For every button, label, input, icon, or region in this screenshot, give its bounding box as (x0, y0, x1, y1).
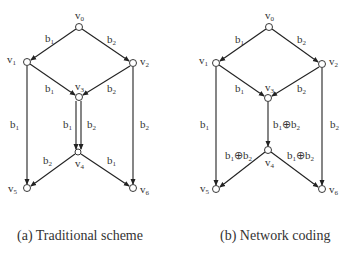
panel-a-traditional-scheme: v0 v1 v2 v3 v4 v5 v6 b1 b2 b1 b2 b1 b2 b… (7, 9, 150, 197)
node-label-a-v2: v2 (140, 55, 150, 69)
node-b-v3 (265, 95, 272, 102)
node-b-v0 (266, 24, 273, 31)
node-a-v1 (24, 59, 31, 66)
edge-label-a-v3-v4-b1: b1 (63, 118, 73, 132)
node-a-v6 (130, 185, 137, 192)
node-b-v1 (213, 60, 220, 67)
node-a-v5 (24, 185, 31, 192)
edge-a-v4-v6 (81, 154, 129, 186)
node-label-a-v6: v6 (140, 183, 150, 197)
node-label-b-v4: v4 (265, 156, 275, 170)
edge-label-a-v2-v6: b2 (140, 118, 150, 132)
node-b-v6 (319, 186, 326, 193)
node-b-v4 (265, 147, 272, 154)
network-coding-diagram: v0 v1 v2 v3 v4 v5 v6 b1 b2 b1 b2 b1 b2 b… (0, 0, 347, 257)
edge-b-v2-v3 (272, 67, 319, 96)
node-a-v3 (76, 94, 83, 101)
edge-label-b-v0-v1: b1 (235, 33, 245, 47)
edge-label-a-v1-v3: b1 (45, 82, 55, 96)
node-a-v4 (75, 149, 81, 155)
edge-a-v4-v5 (31, 154, 75, 186)
node-label-b-v0: v0 (265, 9, 275, 23)
node-label-b-v6: v6 (329, 183, 339, 197)
edge-label-a-v3-v4-b2: b2 (87, 118, 97, 132)
panel-b-network-coding: v0 v1 v2 v3 v4 v5 v6 b1 b2 b1 b2 b1 b2 b… (199, 9, 340, 197)
node-label-a-v5: v5 (8, 182, 18, 196)
edge-label-a-v2-v3: b2 (107, 82, 117, 96)
edge-label-a-v4-v6: b1 (107, 154, 117, 168)
edge-label-b-v4-v6: b1⊕b2 (287, 149, 315, 163)
node-label-b-v3: v3 (265, 81, 275, 95)
node-label-a-v1: v1 (7, 53, 17, 67)
edge-label-b-v4-v5: b1⊕b2 (225, 149, 253, 163)
edge-label-b-v0-v2: b2 (297, 33, 307, 47)
edge-label-a-v1-v5: b1 (10, 118, 20, 132)
node-label-b-v2: v2 (329, 55, 339, 69)
edge-label-b-v2-v6: b2 (330, 118, 340, 132)
edge-label-b-v1-v3: b1 (235, 82, 245, 96)
caption-network-coding: (b) Network coding (220, 228, 330, 244)
edge-label-a-v4-v5: b2 (43, 154, 53, 168)
node-label-a-v0: v0 (75, 9, 85, 23)
node-a-v2 (130, 60, 137, 67)
node-a-v0 (76, 24, 83, 31)
edge-a-v0-v2 (82, 29, 129, 61)
node-b-v2 (319, 61, 326, 68)
edge-label-a-v0-v2: b2 (107, 33, 117, 47)
caption-traditional-scheme: (a) Traditional scheme (17, 228, 143, 244)
edge-label-b-v2-v3: b2 (297, 82, 307, 96)
edge-label-b-v3-v4: b1⊕b2 (273, 118, 301, 132)
edge-label-b-v1-v5: b1 (200, 118, 210, 132)
node-label-a-v3: v3 (75, 80, 85, 94)
edge-b-v0-v2 (272, 29, 318, 62)
node-b-v5 (213, 186, 220, 193)
node-label-a-v4: v4 (75, 157, 85, 171)
edge-label-a-v0-v1: b1 (45, 32, 55, 46)
node-label-b-v1: v1 (199, 54, 209, 68)
node-label-b-v5: v5 (200, 182, 210, 196)
